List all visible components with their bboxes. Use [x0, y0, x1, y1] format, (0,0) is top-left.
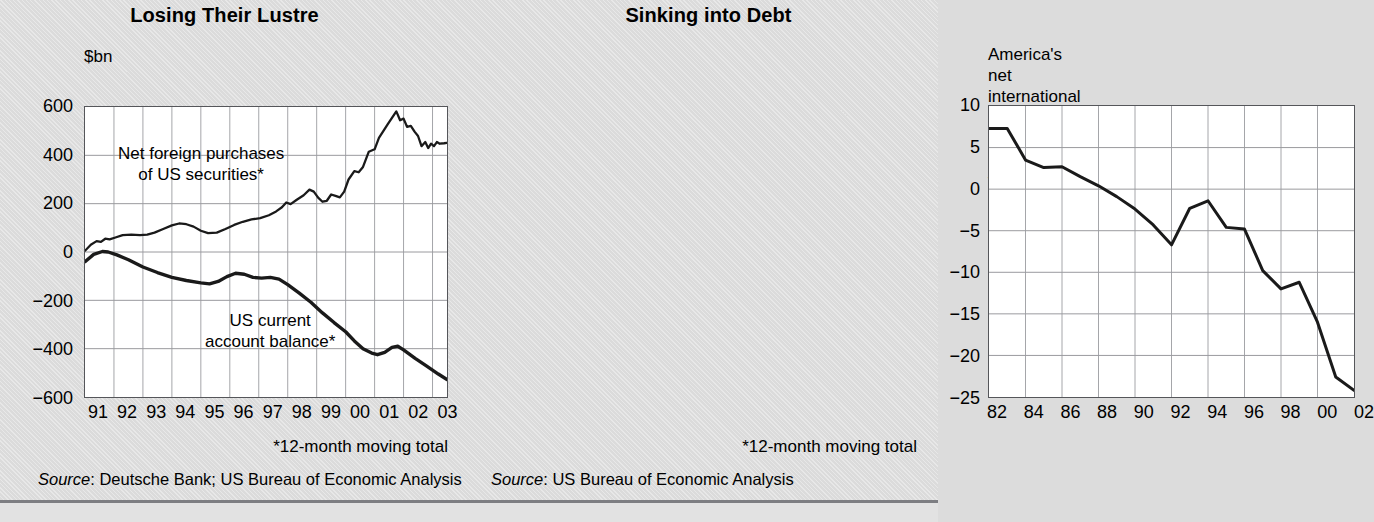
bottom-strip	[0, 503, 938, 522]
x-tick-label: 82	[987, 402, 1007, 423]
y-tick-label: −200	[3, 290, 73, 311]
x-tick-label: 00	[350, 402, 370, 423]
y-tick-label: −20	[924, 346, 980, 367]
source-note-left: Source: Deutsche Bank; US Bureau of Econ…	[38, 470, 462, 489]
x-tick-label: 98	[292, 402, 312, 423]
x-tick-label: 90	[1134, 402, 1154, 423]
source-label-right: Source	[491, 470, 543, 488]
y-tick-label: 5	[924, 136, 980, 157]
gridlines-right	[989, 106, 1354, 397]
x-tick-label: 91	[88, 402, 108, 423]
x-tick-label: 95	[204, 402, 224, 423]
chart-panel-left: Losing Their Lustre $bn 6004002000−200−4…	[0, 0, 469, 522]
y-tick-label: 0	[3, 242, 73, 263]
x-tick-label: 96	[234, 402, 254, 423]
x-tick-label: 02	[1354, 402, 1374, 423]
x-tick-label: 98	[1281, 402, 1301, 423]
x-tick-label: 03	[437, 402, 457, 423]
footnote-right: *12-month moving total	[742, 437, 917, 457]
x-tick-label: 84	[1024, 402, 1044, 423]
y-tick-label: 200	[3, 193, 73, 214]
source-note-right: Source: US Bureau of Economic Analysis	[491, 470, 794, 489]
plot-svg-right	[989, 106, 1354, 397]
x-tick-label: 99	[321, 402, 341, 423]
x-tick-label: 93	[146, 402, 166, 423]
source-label-left: Source	[38, 470, 90, 488]
x-tick-label: 92	[1170, 402, 1190, 423]
y-tick-label: −400	[3, 339, 73, 360]
chart-panel-right: Sinking into Debt America's net internat…	[469, 0, 938, 522]
x-tick-label: 94	[1207, 402, 1227, 423]
annotation-us-current-account-balance: US current account balance*	[205, 310, 335, 352]
page-title-left: Losing Their Lustre	[0, 4, 469, 27]
y-tick-label: 0	[924, 178, 980, 199]
source-text-right: : US Bureau of Economic Analysis	[543, 470, 793, 488]
x-tick-label: 88	[1097, 402, 1117, 423]
y-tick-label: −5	[924, 220, 980, 241]
axis-unit-label-left: $bn	[84, 46, 112, 67]
x-tick-label: 86	[1060, 402, 1080, 423]
x-tick-label: 94	[175, 402, 195, 423]
x-tick-label: 00	[1317, 402, 1337, 423]
y-tick-label: −10	[924, 262, 980, 283]
plot-area-right	[988, 105, 1355, 398]
x-axis-ticks-left: 91929394959697989900010203	[0, 402, 469, 424]
annotation-net-foreign-purchases: Net foreign purchases of US securities*	[118, 143, 284, 185]
y-tick-label: 400	[3, 144, 73, 165]
page-title-right: Sinking into Debt	[469, 4, 938, 27]
source-text-left: : Deutsche Bank; US Bureau of Economic A…	[90, 470, 461, 488]
x-tick-label: 96	[1244, 402, 1264, 423]
x-tick-label: 02	[408, 402, 428, 423]
footnote-left: *12-month moving total	[273, 437, 448, 457]
x-tick-label: 01	[379, 402, 399, 423]
y-tick-label: −15	[924, 304, 980, 325]
x-tick-label: 92	[117, 402, 137, 423]
x-axis-ticks-right: 8284868890929496980002	[469, 402, 938, 424]
y-tick-label: 10	[924, 95, 980, 116]
x-tick-label: 97	[263, 402, 283, 423]
y-tick-label: 600	[3, 96, 73, 117]
